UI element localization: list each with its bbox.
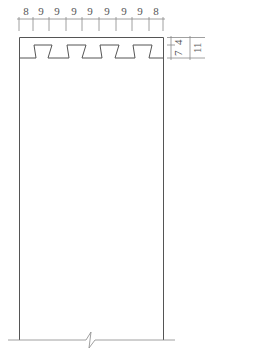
- dim-label-11: 11: [191, 42, 203, 53]
- top-dimension-labels: 8 9 9 9 9 9 9 9 8: [23, 5, 159, 17]
- dim-label: 8: [23, 5, 29, 17]
- side-dimension-labels: 7 4 11: [172, 39, 203, 56]
- top-dimension-chain: [17, 17, 165, 31]
- dim-label: 8: [153, 5, 159, 17]
- dim-label: 9: [121, 5, 127, 17]
- dim-label: 9: [137, 5, 143, 17]
- dim-label: 9: [38, 5, 44, 17]
- section-drawing: 8 9 9 9 9 9 9 9 8 7 4 11: [0, 0, 255, 351]
- dim-label: 9: [71, 5, 77, 17]
- dim-label: 9: [87, 5, 93, 17]
- section-outline: [20, 38, 164, 341]
- dim-label: 9: [54, 5, 60, 17]
- dovetail-profile: [20, 45, 164, 58]
- break-line: [8, 332, 175, 348]
- dim-label: 9: [104, 5, 110, 17]
- dim-label-7: 7: [172, 50, 184, 56]
- dim-label-4: 4: [172, 39, 184, 45]
